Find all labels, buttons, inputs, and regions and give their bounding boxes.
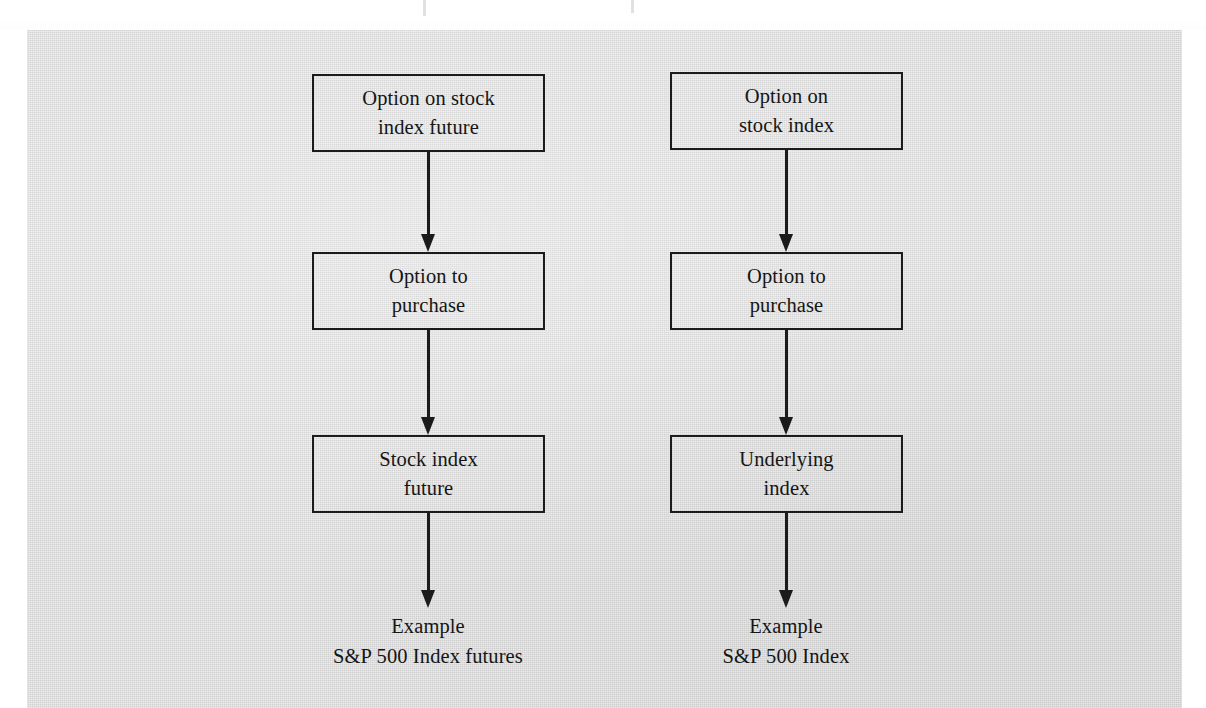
arrow-head xyxy=(779,234,793,252)
example-value: S&P 500 Index xyxy=(636,642,936,672)
flow-box-line-1: Option to xyxy=(389,262,468,291)
flow-box-line-1: Stock index xyxy=(379,445,477,474)
example-label: Example xyxy=(636,612,936,642)
flow-box-option-to-purchase-right: Option to purchase xyxy=(670,252,903,330)
arrow-shaft xyxy=(427,330,430,417)
arrow-shaft xyxy=(427,152,430,234)
scanned-page: Option on stock index future Option to p… xyxy=(0,0,1206,708)
example-caption-stock-index-futures: Example S&P 500 Index futures xyxy=(278,612,578,671)
flow-box-line-2: purchase xyxy=(750,291,824,320)
example-label: Example xyxy=(278,612,578,642)
arrow-shaft xyxy=(785,150,788,234)
arrow-left-1 xyxy=(415,152,441,252)
arrow-head xyxy=(421,590,435,608)
figure-panel: Option on stock index future Option to p… xyxy=(27,30,1182,708)
flow-box-line-2: future xyxy=(404,474,454,503)
flow-box-option-on-stock-index: Option on stock index xyxy=(670,72,903,150)
example-value: S&P 500 Index futures xyxy=(278,642,578,672)
flow-box-stock-index-future: Stock index future xyxy=(312,435,545,513)
flow-box-line-2: stock index xyxy=(739,111,834,140)
flow-box-line-1: Option on stock xyxy=(362,84,494,113)
arrow-right-1 xyxy=(773,150,799,252)
arrow-shaft xyxy=(427,513,430,590)
arrow-head xyxy=(421,417,435,435)
flow-box-underlying-index: Underlying index xyxy=(670,435,903,513)
flow-box-line-2: purchase xyxy=(392,291,466,320)
arrow-left-2 xyxy=(415,330,441,435)
flow-box-line-1: Option to xyxy=(747,262,826,291)
page-text-bleed xyxy=(0,0,1206,30)
arrow-left-3 xyxy=(415,513,441,608)
arrow-shaft xyxy=(785,513,788,590)
flow-box-option-on-stock-index-future: Option on stock index future xyxy=(312,74,545,152)
example-caption-stock-index: Example S&P 500 Index xyxy=(636,612,936,671)
arrow-right-2 xyxy=(773,330,799,435)
arrow-shaft xyxy=(785,330,788,417)
arrow-head xyxy=(779,590,793,608)
arrow-head xyxy=(421,234,435,252)
flow-box-line-2: index xyxy=(763,474,809,503)
flow-box-line-1: Option on xyxy=(745,82,828,111)
arrow-head xyxy=(779,417,793,435)
arrow-right-3 xyxy=(773,513,799,608)
flow-box-option-to-purchase-left: Option to purchase xyxy=(312,252,545,330)
flow-box-line-2: index future xyxy=(378,113,479,142)
flow-box-line-1: Underlying xyxy=(739,445,833,474)
